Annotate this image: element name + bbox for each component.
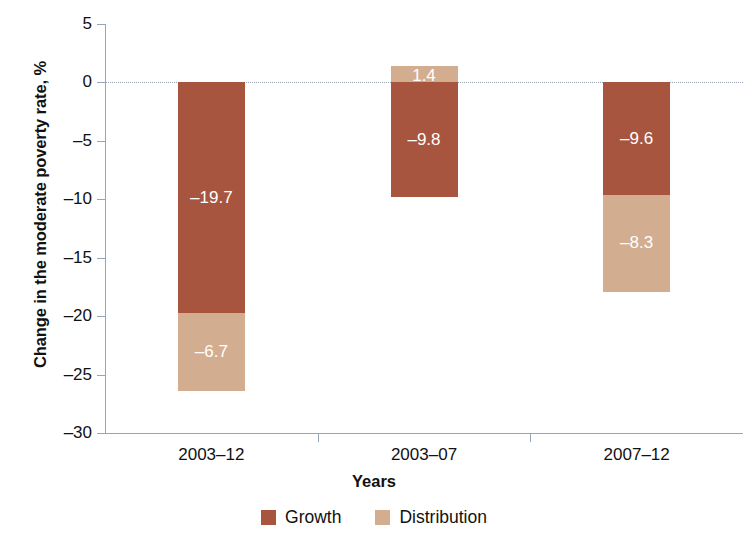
x-axis-tick (318, 433, 319, 442)
y-axis-tick (97, 141, 106, 142)
legend-item-growth: Growth (261, 508, 341, 527)
y-axis-tick-label: –10 (22, 190, 92, 207)
y-axis-tick-label: –15 (22, 249, 92, 266)
bar-value-label: –19.7 (178, 189, 245, 206)
bar-segment-growth: –9.8 (391, 82, 458, 197)
x-axis-category-label: 2003–07 (354, 446, 494, 463)
bar-value-label: 1.4 (391, 67, 458, 84)
x-axis-category-label: 2007–12 (567, 446, 707, 463)
y-axis-tick-label: –25 (22, 366, 92, 383)
y-axis-tick (97, 24, 106, 25)
chart-legend: Growth Distribution (0, 508, 748, 527)
bar-segment-growth: –19.7 (178, 82, 245, 312)
x-axis-tick (530, 433, 531, 442)
x-axis-category-label: 2003–12 (141, 446, 281, 463)
x-axis-line (105, 433, 743, 434)
bar-segment-growth: –9.6 (603, 82, 670, 194)
y-axis-tick-label: –5 (22, 132, 92, 149)
legend-item-distribution: Distribution (375, 508, 487, 527)
legend-label-distribution: Distribution (399, 508, 487, 527)
bar-segment-distribution: –6.7 (178, 313, 245, 391)
legend-swatch-distribution (375, 510, 390, 525)
y-axis-tick (97, 199, 106, 200)
y-axis-tick (97, 316, 106, 317)
poverty-decomposition-chart: Change in the moderate poverty rate, % 5… (0, 0, 748, 537)
legend-swatch-growth (261, 510, 276, 525)
y-axis-line (105, 24, 106, 433)
plot-area: 50–5–10–15–20–25–30 –19.7–6.7–9.81.4–9.6… (105, 24, 743, 433)
y-axis-tick (97, 375, 106, 376)
y-axis-tick-label: –20 (22, 307, 92, 324)
x-axis-title: Years (0, 472, 748, 491)
bar-value-label: –9.6 (603, 130, 670, 147)
bar-value-label: –8.3 (603, 234, 670, 251)
y-axis-tick-label: 5 (22, 15, 92, 32)
y-axis-title: Change in the moderate poverty rate, % (31, 5, 50, 425)
y-axis-tick-label: 0 (22, 73, 92, 90)
legend-label-growth: Growth (285, 508, 341, 527)
bar-value-label: –9.8 (391, 131, 458, 148)
y-axis-tick (97, 433, 106, 434)
bar-segment-distribution: 1.4 (391, 66, 458, 82)
bar-value-label: –6.7 (178, 343, 245, 360)
y-axis-tick (97, 258, 106, 259)
y-axis-tick-label: –30 (22, 424, 92, 441)
bar-segment-distribution: –8.3 (603, 195, 670, 292)
